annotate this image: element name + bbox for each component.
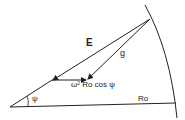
label-centrifugal: ω² Ro cos ψ [71, 81, 115, 89]
diagram-lines [0, 0, 185, 120]
vector-diagram: E g ω² Ro cos ψ ψ Ro [0, 0, 185, 120]
label-E: E [86, 38, 93, 48]
label-angle-psi: ψ [32, 95, 38, 103]
latitude-line [10, 80, 52, 107]
radius-line [10, 103, 176, 107]
angle-arc [27, 96, 28, 106]
E-vector [53, 19, 150, 80]
g-vector [88, 19, 150, 79]
label-radius: Ro [138, 95, 148, 103]
label-g: g [120, 49, 125, 58]
earth-surface-arc [145, 5, 177, 118]
